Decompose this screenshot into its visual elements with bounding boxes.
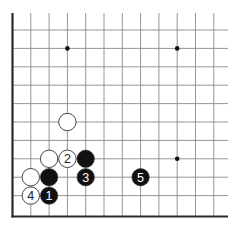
move-number-label: 2 — [64, 152, 71, 166]
white-stone — [22, 169, 39, 186]
board-grid — [12, 13, 229, 218]
black-stone-circle — [77, 150, 94, 167]
white-stone-circle — [22, 169, 39, 186]
black-stone-3: 3 — [77, 169, 94, 186]
white-stone-circle — [40, 150, 57, 167]
go-board: 23541 — [0, 0, 234, 229]
move-number-label: 5 — [137, 171, 144, 185]
black-stone-5: 5 — [132, 169, 149, 186]
hoshi-point — [175, 157, 180, 162]
black-stone-circle — [40, 169, 57, 186]
white-stone-4: 4 — [22, 187, 39, 204]
hoshi-point — [65, 46, 70, 51]
black-stone-1: 1 — [40, 187, 57, 204]
white-stone-2: 2 — [59, 150, 76, 167]
move-number-label: 4 — [27, 189, 34, 203]
white-stone — [59, 113, 76, 130]
white-stone — [40, 150, 57, 167]
move-number-label: 3 — [82, 171, 89, 185]
hoshi-point — [175, 46, 180, 51]
black-stone — [40, 169, 57, 186]
white-stone-circle — [59, 113, 76, 130]
black-stone — [77, 150, 94, 167]
move-number-label: 1 — [46, 189, 53, 203]
